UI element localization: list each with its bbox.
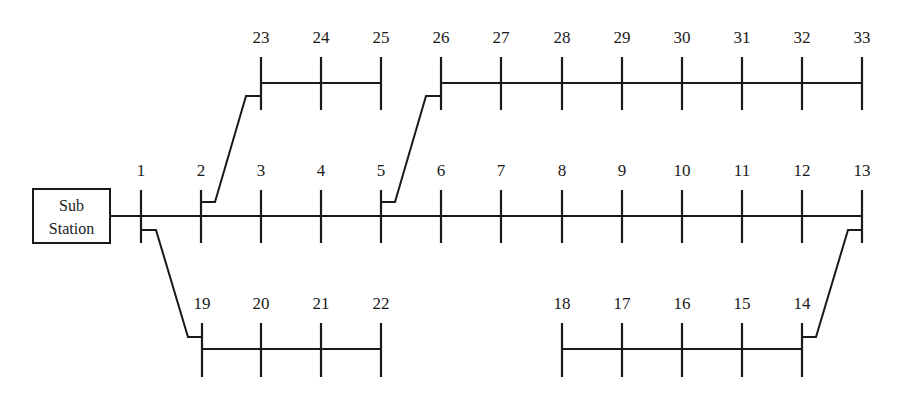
bus-24[interactable]: 24 [313,28,331,110]
bus-label: 27 [493,28,511,47]
branch-2-to-23 [201,96,261,202]
feeder-lateral-26-33: 2627282930313233 [433,28,871,110]
bus-26[interactable]: 26 [433,28,450,110]
bus-21[interactable]: 21 [313,294,330,377]
bus-4[interactable]: 4 [317,161,326,243]
bus-label: 33 [854,28,871,47]
bus-label: 6 [437,161,446,180]
feeders: 1234567891011121323242526272829303132331… [110,28,871,377]
bus-label: 7 [497,161,506,180]
substation-label-line2: Station [49,220,94,237]
bus-22[interactable]: 22 [373,294,390,377]
bus-label: 12 [794,161,811,180]
bus-label: 9 [618,161,627,180]
bus-27[interactable]: 27 [493,28,511,110]
bus-9[interactable]: 9 [618,161,627,243]
bus-33[interactable]: 33 [854,28,871,110]
feeder-lateral-23-25: 232425 [253,28,390,110]
bus-label: 28 [554,28,571,47]
bus-6[interactable]: 6 [437,161,446,243]
feeder-lateral-14-18: 1817161514 [554,294,812,377]
bus-3[interactable]: 3 [257,161,266,243]
branch-1-to-19 [141,230,202,337]
bus-15[interactable]: 15 [734,294,751,377]
bus-label: 15 [734,294,751,313]
bus-label: 23 [253,28,270,47]
bus-14[interactable]: 14 [794,294,812,377]
bus-17[interactable]: 17 [614,294,632,377]
bus-label: 32 [794,28,811,47]
single-line-diagram: Sub Station 1234567891011121323242526272… [0,0,900,400]
bus-7[interactable]: 7 [497,161,506,243]
bus-label: 1 [137,161,146,180]
substation: Sub Station [33,189,110,243]
bus-31[interactable]: 31 [734,28,751,110]
bus-label: 31 [734,28,751,47]
branch-13-to-14 [802,230,862,337]
bus-label: 10 [674,161,691,180]
bus-label: 3 [257,161,266,180]
bus-23[interactable]: 23 [253,28,270,110]
bus-18[interactable]: 18 [554,294,571,377]
bus-16[interactable]: 16 [674,294,691,377]
bus-label: 24 [313,28,331,47]
bus-label: 11 [734,161,750,180]
bus-29[interactable]: 29 [614,28,631,110]
bus-20[interactable]: 20 [253,294,270,377]
substation-label-line1: Sub [59,197,84,214]
bus-8[interactable]: 8 [558,161,567,243]
bus-label: 21 [313,294,330,313]
bus-label: 8 [558,161,567,180]
bus-12[interactable]: 12 [794,161,811,243]
feeder-lateral-19-22: 19202122 [194,294,390,377]
bus-10[interactable]: 10 [674,161,691,243]
bus-label: 30 [674,28,691,47]
bus-label: 5 [377,161,386,180]
bus-11[interactable]: 11 [734,161,750,243]
bus-label: 20 [253,294,270,313]
bus-label: 18 [554,294,571,313]
bus-label: 25 [373,28,390,47]
bus-label: 17 [614,294,632,313]
bus-28[interactable]: 28 [554,28,571,110]
bus-label: 2 [197,161,206,180]
bus-label: 14 [794,294,812,313]
bus-25[interactable]: 25 [373,28,390,110]
branch-5-to-26 [381,96,441,202]
bus-label: 29 [614,28,631,47]
bus-label: 16 [674,294,691,313]
bus-32[interactable]: 32 [794,28,811,110]
bus-label: 4 [317,161,326,180]
bus-30[interactable]: 30 [674,28,691,110]
bus-label: 26 [433,28,450,47]
bus-19[interactable]: 19 [194,294,211,377]
bus-label: 19 [194,294,211,313]
bus-label: 22 [373,294,390,313]
bus-label: 13 [854,161,871,180]
